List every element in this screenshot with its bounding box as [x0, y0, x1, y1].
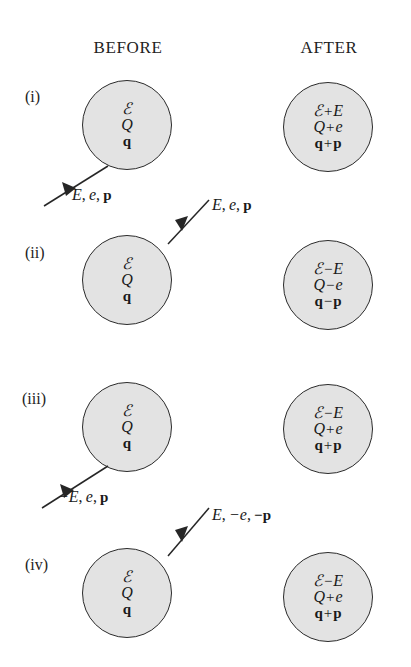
blob-line-momentum: q: [123, 436, 131, 451]
row-label-iv: (iv): [25, 556, 48, 574]
blob-line-charge: Q: [121, 272, 133, 288]
blob-line-charge: Q+e: [313, 119, 342, 135]
blob-line-energy: ℰ+E: [313, 103, 343, 119]
row-label-ii: (ii): [25, 244, 45, 262]
blob-line-charge: Q−e: [313, 277, 342, 293]
blob-after-iv: ℰ−E Q+e q+p: [283, 552, 373, 642]
blob-line-momentum: q+p: [314, 438, 341, 453]
blob-after-i: ℰ+E Q+e q+p: [283, 82, 373, 172]
row-label-iii: (iii): [22, 390, 46, 408]
blob-before-iii: ℰ Q q: [82, 382, 172, 472]
blob-after-ii: ℰ−E Q−e q−p: [283, 240, 373, 330]
blob-line-energy: ℰ: [122, 569, 132, 585]
arrow-label-iii: −E, e, p: [58, 488, 108, 506]
blob-before-iv: ℰ Q q: [82, 548, 172, 638]
arrow-label-i: E, e, p: [72, 186, 112, 204]
blob-line-momentum: q: [123, 602, 131, 617]
arrow-label-iv: E, −e, −p: [212, 506, 271, 524]
blob-line-momentum: q+p: [314, 606, 341, 621]
blob-before-i: ℰ Q q: [82, 80, 172, 170]
blob-line-charge: Q+e: [313, 421, 342, 437]
row-label-i: (i): [25, 88, 40, 106]
blob-line-charge: Q: [121, 419, 133, 435]
column-header-after: AFTER: [283, 38, 375, 58]
blob-line-charge: Q: [121, 585, 133, 601]
figure-root: BEFORE AFTER (i) ℰ Q q ℰ+E Q+e q+p E, e,…: [0, 0, 411, 667]
blob-line-charge: Q: [121, 117, 133, 133]
blob-line-momentum: q: [123, 134, 131, 149]
blob-line-energy: ℰ: [122, 101, 132, 117]
blob-line-energy: ℰ: [122, 403, 132, 419]
blob-line-charge: Q+e: [313, 589, 342, 605]
blob-line-momentum: q+p: [314, 136, 341, 151]
blob-line-energy: ℰ: [122, 256, 132, 272]
blob-after-iii: ℰ−E Q+e q+p: [283, 384, 373, 474]
blob-line-momentum: q: [123, 289, 131, 304]
blob-line-energy: ℰ−E: [313, 405, 343, 421]
column-header-before: BEFORE: [82, 38, 174, 58]
blob-line-energy: ℰ−E: [313, 261, 343, 277]
blob-line-energy: ℰ−E: [313, 573, 343, 589]
blob-line-momentum: q−p: [314, 294, 341, 309]
blob-before-ii: ℰ Q q: [82, 235, 172, 325]
arrow-label-ii: E, e, p: [212, 196, 252, 214]
